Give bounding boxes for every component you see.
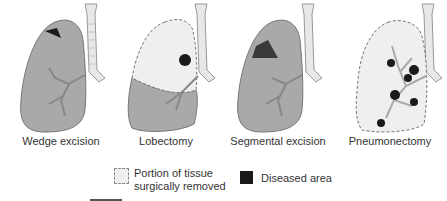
panel-wedge-excision: Wedge excision [5,0,117,150]
lung-segmental-illustration [222,0,334,135]
panel-label: Lobectomy [110,135,222,147]
panel-pneumonectomy: Pneumonectomy [334,0,446,150]
legend-removed-swatch [114,168,129,184]
cropped-caption [90,196,320,201]
legend-removed-label: Portion of tissue surgically removed [134,167,226,193]
panel-lobectomy: Lobectomy [110,0,222,150]
trachea-icon [195,4,215,82]
diseased-area-icon [179,54,191,66]
lung-lobectomy-illustration [110,0,222,135]
trachea-icon [302,4,322,82]
legend-diseased-swatch [240,171,253,184]
legend-diseased-label: Diseased area [261,172,332,185]
trachea-icon [85,4,105,82]
lung-pneumonectomy-illustration [334,0,446,135]
panel-label: Pneumonectomy [334,135,446,147]
panel-label: Wedge excision [5,135,117,147]
panel-segmental-excision: Segmental excision [222,0,334,150]
panel-label: Segmental excision [222,135,334,147]
removed-lung-icon [356,21,427,132]
lung-wedge-illustration [5,0,117,135]
lung-icon [238,20,303,132]
